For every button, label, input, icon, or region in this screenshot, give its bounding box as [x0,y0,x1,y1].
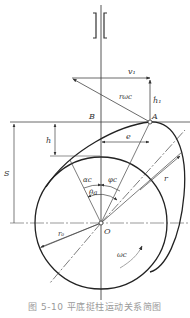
label-h-dot: ḣ₁ [153,96,161,105]
label-theta: θa [89,189,97,197]
label-v1: v₁ [128,67,136,76]
label-omega: ωc [117,251,127,259]
label-s: S [4,169,10,178]
r0-arrow [41,223,101,247]
tappet-guide [93,13,107,38]
point-o [99,221,103,225]
label-e: e [126,132,131,141]
label-r: r [164,174,169,183]
alpha-arc [84,185,101,188]
label-r0: r₀ [58,230,64,238]
r-omega-arrow [73,79,150,122]
label-b: B [88,112,95,121]
figure-caption: 图 5-10 平底挺柱运动关系简图 [0,300,190,313]
label-r-omega: rωc [119,93,132,101]
cam-profile [46,122,185,272]
label-h: h [46,136,51,145]
label-alpha: αc [83,176,92,184]
label-o: O [104,227,111,236]
cam-tappet-diagram: v₁ rωc ḣ₁ B A h S e αc φc θa r r₀ O ωc [0,0,190,318]
label-phi: φc [108,176,117,184]
label-a: A [151,112,158,121]
